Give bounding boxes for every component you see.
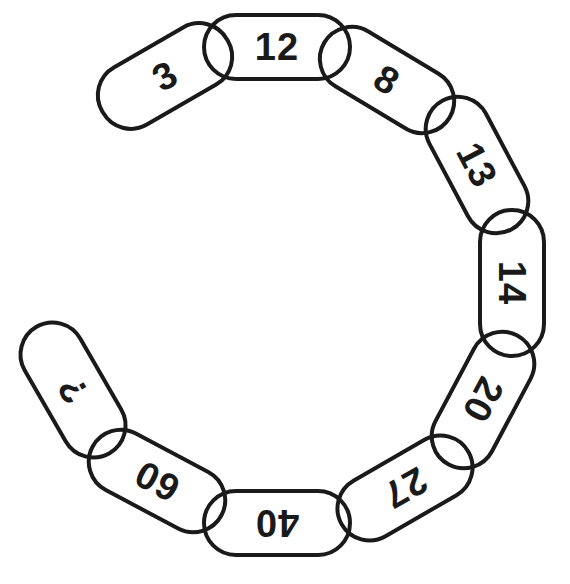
question-mark-number: ?	[50, 370, 95, 410]
number-chain-diagram: 3 12 8 13 14 20 27 40 60 ?	[0, 0, 570, 584]
link-number: 3	[146, 54, 184, 98]
link-number: 20	[456, 372, 510, 429]
link-number: 40	[255, 504, 299, 542]
link-number: 27	[376, 460, 433, 515]
link-number: 60	[129, 454, 186, 508]
link-number: 14	[493, 261, 531, 305]
link-number: 13	[450, 137, 504, 194]
link-number: 8	[368, 58, 407, 102]
link-number: 12	[255, 28, 299, 66]
